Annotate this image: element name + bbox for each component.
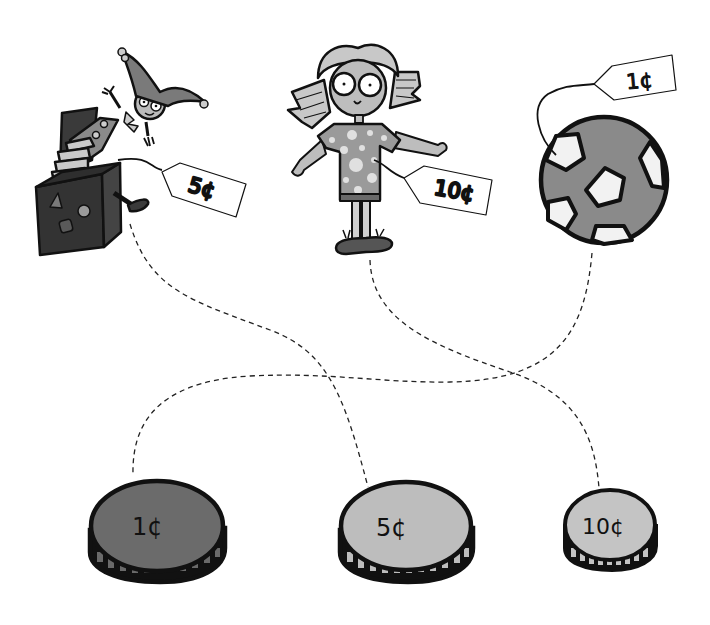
girl-leg <box>352 201 360 239</box>
coin-10-cent[interactable]: 10¢ <box>565 490 656 570</box>
worksheet-scene: 5¢ <box>0 0 710 625</box>
girl-doll: 10¢ <box>288 45 492 254</box>
tag-string <box>118 159 162 170</box>
coin-1-cent-label: 1¢ <box>132 513 163 541</box>
price-tag-jack: 5¢ <box>162 163 246 217</box>
price-tag-girl: 10¢ <box>404 166 492 215</box>
jack-in-the-box: 5¢ <box>36 48 246 255</box>
jester-arm <box>146 122 148 136</box>
dress-hem <box>340 194 380 201</box>
girl-arm-right <box>394 132 447 156</box>
path-girl-to-10c-coin <box>370 260 599 488</box>
hat-bell <box>122 55 129 62</box>
hat-bell <box>200 100 208 108</box>
jester-button <box>93 132 100 139</box>
pigtail-right <box>390 72 420 108</box>
girl-arm-left <box>292 140 326 176</box>
path-jack-to-5c-coin <box>130 224 368 487</box>
jester-arm <box>110 92 120 108</box>
square-shape-icon <box>59 219 74 234</box>
matching-paths <box>130 224 599 488</box>
box-side <box>102 163 121 247</box>
jester-button <box>101 121 108 128</box>
coin-5-cent-label: 5¢ <box>376 514 407 542</box>
soccer-ball: 1¢ <box>538 55 676 244</box>
jester-collar <box>124 112 138 132</box>
coin-1-cent[interactable]: 1¢ <box>90 481 225 582</box>
price-tag-ball: 1¢ <box>594 55 676 100</box>
coin-5-cent[interactable]: 5¢ <box>340 482 473 582</box>
pigtail-left <box>288 80 330 128</box>
girl-shoes <box>336 237 392 254</box>
circle-shape-icon <box>78 205 90 217</box>
girl-leg <box>362 201 370 239</box>
path-ball-to-1c-coin <box>133 253 592 475</box>
coin-10-cent-label: 10¢ <box>582 514 624 539</box>
price-tag-ball-label: 1¢ <box>625 68 654 94</box>
